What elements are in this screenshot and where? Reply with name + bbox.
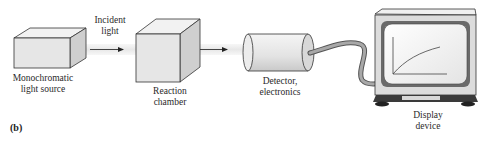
light-source-label: Monochromatic light source [4,73,82,95]
label-line: device [398,121,458,132]
display-label: Display device [398,110,458,132]
label-line: Incident [85,15,135,26]
detector-label: Detector, electronics [250,76,310,98]
control-panel [402,96,440,100]
label-line: light [85,26,135,37]
label-line: Detector, [250,76,310,87]
label-line: Display [398,110,458,121]
label-line: chamber [140,97,200,108]
label-line: Monochromatic [4,73,82,84]
label-line: Reaction [140,86,200,97]
transmitted-light-beam [196,44,248,55]
light-source-box [14,28,86,68]
label-line: light source [4,84,82,95]
detector-cylinder [243,34,314,71]
display-monitor [373,9,478,107]
monitor-foot [461,102,475,107]
reaction-chamber-label: Reaction chamber [140,86,200,108]
reaction-chamber-box [136,19,200,82]
panel-label: (b) [10,122,22,133]
label-line: electronics [250,87,310,98]
monitor-foot [375,102,389,107]
incident-light-beam [80,44,140,55]
incident-light-label: Incident light [85,15,135,37]
